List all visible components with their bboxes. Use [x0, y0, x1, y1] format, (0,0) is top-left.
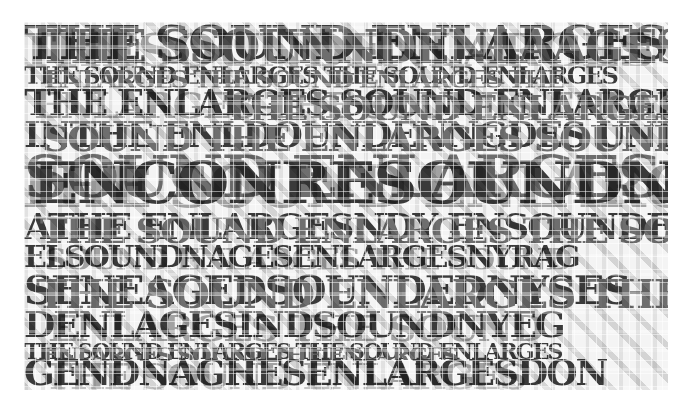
text-band-row6: ATHE ENLARGESNDY ENSOUNDETHE SOUND ENLAR…: [24, 208, 668, 244]
text-layer: SOUND THE ENLARGES SOUND: [42, 120, 668, 152]
text-layer: THESOUNDENLARGES: [24, 28, 668, 66]
text-band-row4: INTHE ENLDOUNDENNGDES UNDTESOUND THE ENL…: [24, 116, 668, 152]
text-layer: ENLARGES THE SOUND: [48, 310, 668, 342]
text-band-row8: SENEAGEDSOUNDEDNYSESTHE SOUND ENLARGES T…: [24, 270, 668, 310]
text-layer: SOUND ENLARGES THE SOUND: [44, 245, 668, 272]
text-layer: THE SOUND ENLARGES THE SOUND: [40, 212, 668, 244]
text-band-row5: SOUND ENLARGES SOUNDENCONRESOUNDNTHE SOU…: [24, 152, 668, 210]
text-band-row9: DENLAGESINDSOUNDNYEGENLARGES THE SOUND: [24, 306, 668, 342]
text-band-row7: ELSOUNDNAGESENLARGESNYRAGSOUND ENLARGES …: [24, 242, 668, 272]
typographic-collage: THE SOUND ENLARGESTHE SSOUNNDENLAAGESTHE…: [24, 22, 668, 390]
text-layer: THE SOUND ENLARGES SOUNDS: [24, 158, 668, 210]
text-layer: THE SOUND ENLARGES THE: [36, 274, 668, 310]
text-layer: THE SOUND ENLARGES: [44, 358, 668, 390]
text-band-row11: GENDNAGHESENLARGESDONTHE SOUND ENLARGES: [24, 356, 668, 390]
text-band-row1: THE SOUND ENLARGESTHE SSOUNNDENLAAGESTHE…: [24, 22, 668, 66]
text-band-row3: THE ENLARGES SOUND ENLARGES SOUENLARGES …: [24, 84, 668, 120]
